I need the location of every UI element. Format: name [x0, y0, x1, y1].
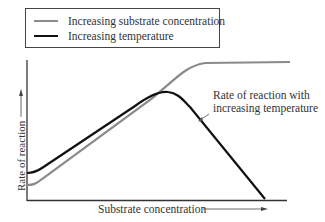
y-axis-label-text: Rate of reaction	[15, 121, 27, 191]
x-axis-label: Substrate concentration	[98, 203, 206, 215]
legend-item-substrate: Increasing substrate concentration	[34, 14, 225, 28]
chart-legend: Increasing substrate concentration Incre…	[25, 8, 220, 48]
y-axis-label: Rate of reaction	[15, 81, 27, 191]
legend-item-temperature: Increasing temperature	[34, 29, 174, 43]
x-axis-arrow-icon	[261, 207, 268, 211]
legend-label: Increasing temperature	[68, 30, 174, 42]
legend-swatch-black	[34, 35, 58, 37]
legend-label: Increasing substrate concentration	[68, 15, 225, 27]
annotation-line-2: increasing temperature	[213, 102, 318, 115]
legend-swatch-gray	[34, 20, 58, 22]
annotation-line-1: Rate of reaction with	[213, 89, 318, 102]
curve-annotation: Rate of reaction with increasing tempera…	[213, 89, 318, 115]
substrate-concentration-curve	[27, 62, 290, 185]
y-axis-arrow-icon	[18, 89, 24, 117]
